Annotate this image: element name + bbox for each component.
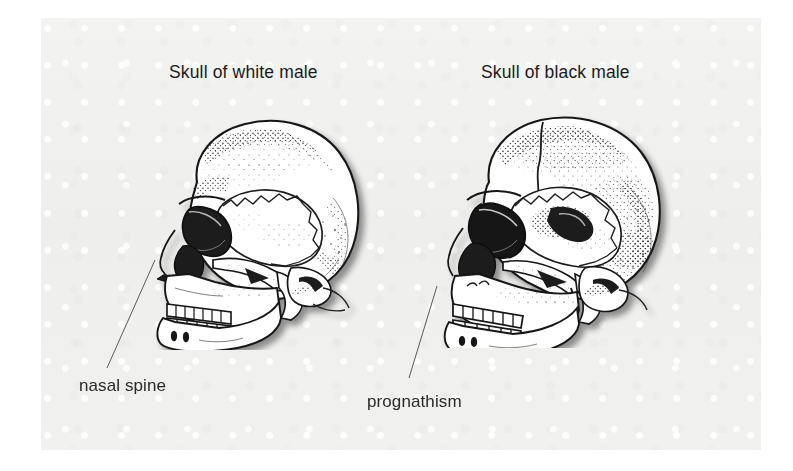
figure-plate: Skull of white male Skull of black male bbox=[41, 18, 761, 450]
annotation-nasal-spine: nasal spine bbox=[79, 376, 166, 396]
caption-right-skull: Skull of black male bbox=[481, 62, 630, 83]
figure-page: Skull of white male Skull of black male bbox=[0, 0, 793, 471]
caption-left-skull: Skull of white male bbox=[169, 62, 318, 83]
skull-lateral-icon-left bbox=[127, 112, 375, 350]
skull-lateral-icon-right bbox=[427, 110, 675, 348]
annotation-prognathism: prognathism bbox=[367, 392, 462, 412]
